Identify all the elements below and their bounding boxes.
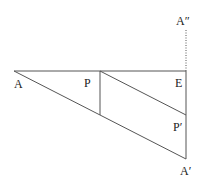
label-e: E [175, 76, 182, 90]
label-a: A [14, 77, 23, 91]
geometry-diagram: A P E A″ P′ A′ [0, 0, 204, 185]
label-a-double-prime: A″ [176, 14, 190, 28]
label-p-prime: P′ [173, 120, 183, 134]
segment-p-p-prime [100, 71, 186, 115]
label-p: P [84, 76, 91, 90]
label-a-prime: A′ [180, 164, 192, 178]
